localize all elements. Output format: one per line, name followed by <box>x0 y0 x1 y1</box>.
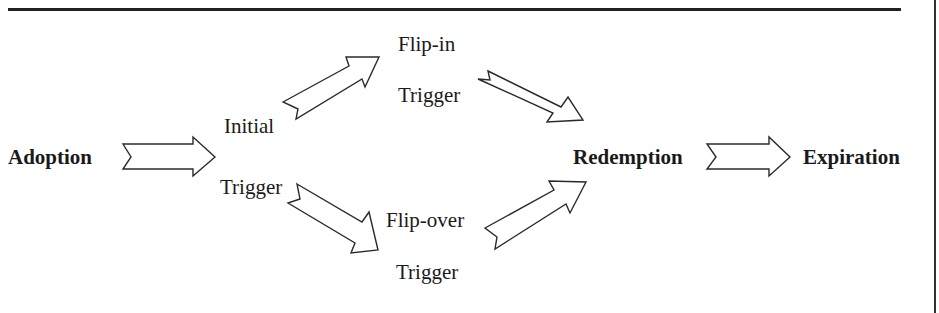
node-redemption: Redemption <box>573 145 683 169</box>
node-expiration: Expiration <box>803 145 900 169</box>
arrow-redemption-to-expiration <box>707 137 790 176</box>
arrow-flip-in-to-redemption <box>478 71 583 122</box>
node-flip-over-trigger: Trigger <box>396 260 458 284</box>
node-flip-over: Flip-over <box>386 208 464 232</box>
arrow-initial-to-flip-in <box>283 57 379 119</box>
node-adoption: Adoption <box>8 145 92 169</box>
arrow-initial-to-flip-over <box>288 184 378 253</box>
arrows-layer <box>0 0 939 313</box>
node-flip-in-trigger: Trigger <box>398 83 460 107</box>
arrow-flip-over-to-redemption <box>485 181 586 249</box>
node-initial-trigger: Trigger <box>220 175 282 199</box>
node-flip-in: Flip-in <box>398 32 455 56</box>
node-initial: Initial <box>224 114 274 138</box>
arrow-adoption-to-initial-trigger <box>123 137 215 176</box>
